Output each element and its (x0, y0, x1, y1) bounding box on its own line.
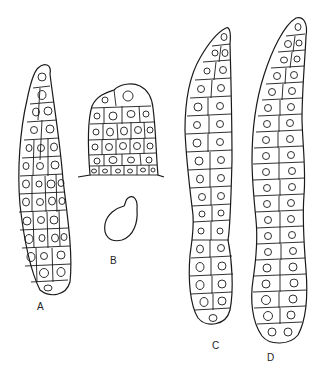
panel-a-label: A (37, 302, 44, 312)
panel-d-label: D (267, 353, 274, 363)
panel-d-drawing (252, 18, 307, 343)
figure-plate: A B C D (0, 0, 317, 375)
panel-b-dome-drawing (78, 84, 164, 177)
panel-b-spore-drawing (105, 197, 137, 241)
panel-c-drawing (185, 28, 233, 324)
panel-a-drawing (19, 65, 71, 295)
panel-b-label: B (110, 256, 117, 266)
panel-c-label: C (212, 341, 219, 351)
